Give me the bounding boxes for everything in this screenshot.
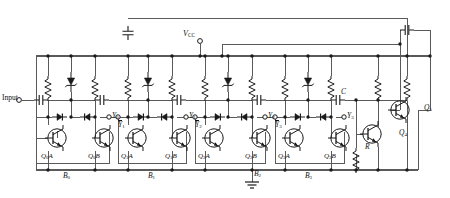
- diode-d1a: [133, 113, 148, 120]
- terminal-y0: [107, 115, 111, 119]
- wire-second-loop: [222, 44, 400, 56]
- transistor-label-q1b: Q1B: [165, 153, 177, 161]
- terminal-y3: [342, 115, 346, 119]
- transistor-q1a: [125, 125, 146, 151]
- diode-d1b: [157, 113, 172, 120]
- diode-d0b: [80, 113, 95, 120]
- device-layer: [17, 25, 432, 188]
- wiring-layer: [22, 18, 430, 182]
- transistor-label-q4: Q4: [399, 129, 407, 138]
- zener-diode-z0: [65, 72, 76, 92]
- node-label-y2: Y2: [268, 112, 275, 121]
- block-label-b3: B3: [305, 172, 312, 181]
- terminal-y2: [263, 115, 267, 119]
- resistor-collector-q5: [404, 76, 410, 101]
- resistor-r1b: [169, 76, 175, 101]
- resistor-r0b: [92, 76, 98, 101]
- diode-d0a: [52, 113, 67, 120]
- block-label-b2: B2: [254, 170, 261, 179]
- transistor-label-q0a: Q0A: [41, 153, 53, 161]
- transistor-label-q5: Q5: [424, 104, 432, 113]
- transistor-q2a: [202, 125, 223, 151]
- resistor-collector-q4: [375, 76, 381, 101]
- resistor-label-r: R: [365, 143, 370, 151]
- transistor-q3a: [282, 125, 303, 151]
- resistor-r2b: [249, 76, 255, 101]
- node-label-y3: Y3: [347, 112, 354, 121]
- wire-top-outer-loop: [128, 18, 407, 56]
- input-label: Input: [2, 94, 18, 102]
- transistor-label-q0b: Q0B: [88, 153, 100, 161]
- schematic-canvas: [0, 0, 450, 198]
- node-label-ybar2: Y2: [195, 120, 202, 130]
- wire-out-up: [418, 56, 430, 110]
- node-label-ybar3: Y3: [275, 120, 282, 130]
- ground-icon: [245, 182, 259, 188]
- resistor-r3b: [328, 76, 334, 101]
- transistor-label-q2b: Q2B: [245, 153, 257, 161]
- transistor-label-q3a: Q3A: [278, 153, 290, 161]
- capacitor-supply-bypass-1: [123, 26, 134, 40]
- vcc-label: VCC: [183, 30, 195, 38]
- node-label-ybar1: Y1: [118, 120, 125, 130]
- resistor-r3a: [282, 76, 288, 101]
- zener-diode-z3: [302, 72, 313, 92]
- diode-d2a: [210, 113, 225, 120]
- transistor-q0a: [45, 125, 66, 151]
- block-label-b0: B0: [63, 172, 70, 181]
- resistor-r0a: [45, 76, 51, 101]
- junction-dots: [46, 42, 431, 171]
- circuit-diagram-figure: Input VCC Y0 Y1 Y1 Y2 Y2 Y3 Y3 Q0A Q0B Q…: [0, 0, 450, 198]
- transistor-label-q1a: Q1A: [121, 153, 133, 161]
- transistor-label-q2a: Q2A: [198, 153, 210, 161]
- block-label-b1: B1: [148, 172, 155, 181]
- resistor-r2a: [202, 76, 208, 101]
- terminal-y1: [184, 115, 188, 119]
- diode-d2b: [237, 113, 252, 120]
- transistor-label-q3b: Q3B: [324, 153, 336, 161]
- zener-diode-z1: [142, 72, 153, 92]
- zener-diode-z2: [222, 72, 233, 92]
- capacitor-label-c: C: [341, 88, 346, 96]
- transistor-q4: [360, 121, 381, 147]
- diode-d3b: [316, 113, 331, 120]
- resistor-r1a: [125, 76, 131, 101]
- diode-d3a: [290, 113, 305, 120]
- terminal-vcc: [198, 39, 203, 44]
